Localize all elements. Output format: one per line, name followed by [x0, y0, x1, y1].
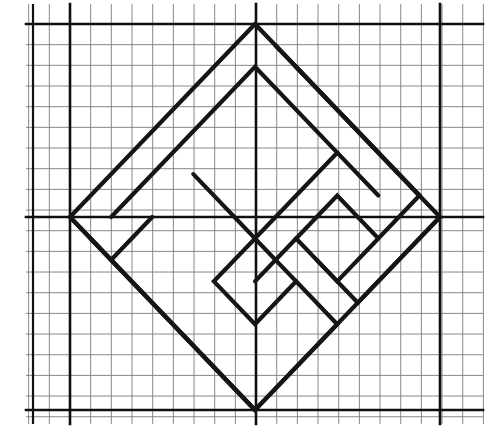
geometric-spiral-figure: [0, 0, 497, 433]
figure-root: [0, 0, 497, 433]
